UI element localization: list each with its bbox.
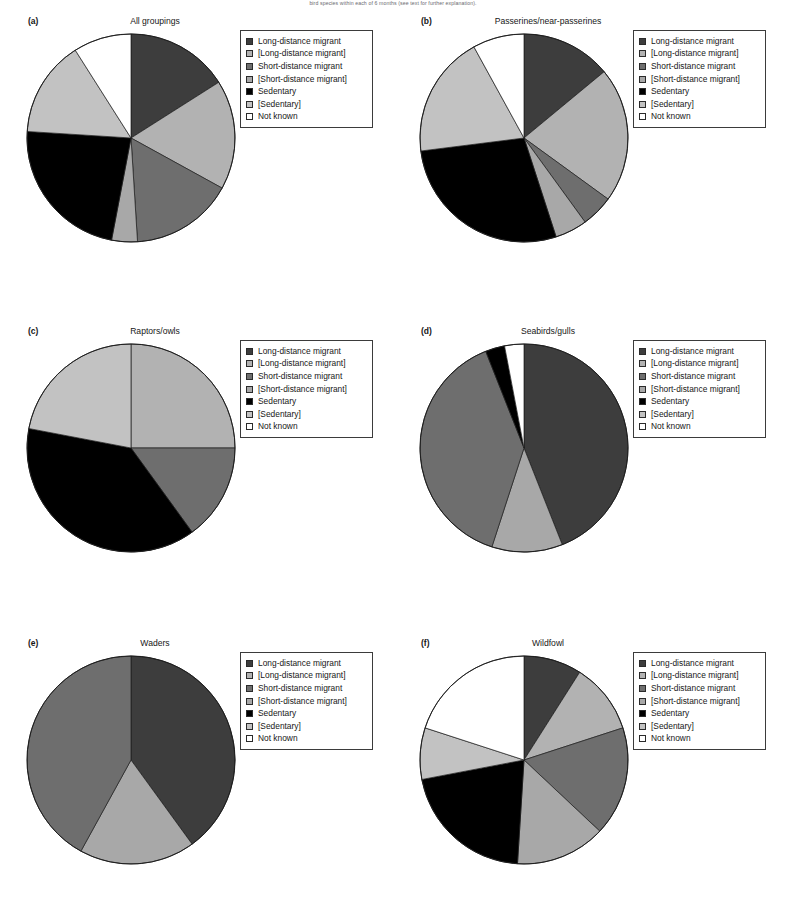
legend-item-label: [Short-distance migrant] xyxy=(651,697,740,706)
legend-swatch-icon xyxy=(246,50,253,57)
legend-item-sdm[interactable]: Short-distance migrant xyxy=(246,370,365,383)
pie-chart xyxy=(25,32,237,244)
legend-item-ldm[interactable]: Long-distance migrant xyxy=(639,657,758,670)
legend-item-ldm[interactable]: Long-distance migrant xyxy=(246,35,365,48)
legend-swatch-icon xyxy=(639,113,646,120)
legend-item-ldm_b[interactable]: [Long-distance migrant] xyxy=(639,670,758,683)
legend-item-ldm_b[interactable]: [Long-distance migrant] xyxy=(639,48,758,61)
legend-swatch-icon xyxy=(639,735,646,742)
legend-item-sdm[interactable]: Short-distance migrant xyxy=(639,682,758,695)
legend-item-label: [Sedentary] xyxy=(651,100,694,109)
legend-item-ldm_b[interactable]: [Long-distance migrant] xyxy=(246,670,365,683)
legend-swatch-icon xyxy=(246,38,253,45)
legend-swatch-icon xyxy=(639,373,646,380)
legend-item-nk[interactable]: Not known xyxy=(246,421,365,434)
legend-item-sdm[interactable]: Short-distance migrant xyxy=(246,682,365,695)
legend-item-label: [Sedentary] xyxy=(651,722,694,731)
legend-item-label: Sedentary xyxy=(651,709,689,718)
legend-item-sdm_b[interactable]: [Short-distance migrant] xyxy=(639,73,758,86)
legend-swatch-icon xyxy=(639,710,646,717)
legend-item-ldm[interactable]: Long-distance migrant xyxy=(246,657,365,670)
legend-item-nk[interactable]: Not known xyxy=(639,733,758,746)
legend-item-sed[interactable]: Sedentary xyxy=(246,395,365,408)
legend: Long-distance migrant[Long-distance migr… xyxy=(633,340,766,438)
legend-item-label: Short-distance migrant xyxy=(258,62,342,71)
legend-swatch-icon xyxy=(246,735,253,742)
legend-item-sdm_b[interactable]: [Short-distance migrant] xyxy=(246,73,365,86)
chart-panel-f: (f)WildfowlLong-distance migrant[Long-di… xyxy=(393,632,786,904)
legend-swatch-icon xyxy=(639,38,646,45)
legend-item-label: Not known xyxy=(651,112,691,121)
legend-item-label: Short-distance migrant xyxy=(651,684,735,693)
panel-title: Raptors/owls xyxy=(60,326,250,336)
legend-swatch-icon xyxy=(639,348,646,355)
legend-item-label: [Sedentary] xyxy=(651,410,694,419)
legend-item-sed_b[interactable]: [Sedentary] xyxy=(639,720,758,733)
legend-item-sed[interactable]: Sedentary xyxy=(246,85,365,98)
legend-item-nk[interactable]: Not known xyxy=(246,733,365,746)
legend: Long-distance migrant[Long-distance migr… xyxy=(240,340,373,438)
panel-title: Passerines/near-passerines xyxy=(453,16,643,26)
legend-swatch-icon xyxy=(639,423,646,430)
chart-panel-c: (c)Raptors/owlsLong-distance migrant[Lon… xyxy=(0,320,393,620)
legend-item-sdm[interactable]: Short-distance migrant xyxy=(639,370,758,383)
legend-item-sdm_b[interactable]: [Short-distance migrant] xyxy=(246,383,365,396)
legend-swatch-icon xyxy=(639,660,646,667)
legend-swatch-icon xyxy=(639,50,646,57)
legend-item-label: Sedentary xyxy=(651,397,689,406)
legend-item-nk[interactable]: Not known xyxy=(639,111,758,124)
legend-item-sed[interactable]: Sedentary xyxy=(246,707,365,720)
legend-item-sdm[interactable]: Short-distance migrant xyxy=(639,60,758,73)
legend-item-label: [Short-distance migrant] xyxy=(258,385,347,394)
legend-item-sed[interactable]: Sedentary xyxy=(639,395,758,408)
legend-item-label: [Long-distance migrant] xyxy=(258,671,346,680)
legend-item-label: Short-distance migrant xyxy=(651,372,735,381)
legend-item-nk[interactable]: Not known xyxy=(246,111,365,124)
legend-item-sed[interactable]: Sedentary xyxy=(639,85,758,98)
legend-item-label: [Long-distance migrant] xyxy=(651,671,739,680)
legend-swatch-icon xyxy=(639,63,646,70)
legend-item-label: Long-distance migrant xyxy=(651,659,734,668)
legend: Long-distance migrant[Long-distance migr… xyxy=(240,652,373,750)
legend-swatch-icon xyxy=(639,698,646,705)
legend-item-sed_b[interactable]: [Sedentary] xyxy=(639,98,758,111)
legend-item-ldm[interactable]: Long-distance migrant xyxy=(639,345,758,358)
pie-svg xyxy=(418,654,630,866)
legend-swatch-icon xyxy=(639,685,646,692)
legend-item-sed_b[interactable]: [Sedentary] xyxy=(246,720,365,733)
legend-item-label: Long-distance migrant xyxy=(651,347,734,356)
legend-item-ldm_b[interactable]: [Long-distance migrant] xyxy=(246,48,365,61)
legend-swatch-icon xyxy=(246,386,253,393)
legend-item-sdm[interactable]: Short-distance migrant xyxy=(246,60,365,73)
legend: Long-distance migrant[Long-distance migr… xyxy=(633,652,766,750)
legend-item-label: [Long-distance migrant] xyxy=(258,49,346,58)
panel-letter: (f) xyxy=(421,638,430,648)
legend-swatch-icon xyxy=(246,672,253,679)
legend-item-ldm[interactable]: Long-distance migrant xyxy=(639,35,758,48)
legend-swatch-icon xyxy=(246,423,253,430)
legend-item-sdm_b[interactable]: [Short-distance migrant] xyxy=(246,695,365,708)
legend-item-sed_b[interactable]: [Sedentary] xyxy=(246,408,365,421)
legend-item-ldm_b[interactable]: [Long-distance migrant] xyxy=(246,358,365,371)
legend-item-nk[interactable]: Not known xyxy=(639,421,758,434)
legend-item-label: Short-distance migrant xyxy=(651,62,735,71)
legend-item-sdm_b[interactable]: [Short-distance migrant] xyxy=(639,695,758,708)
legend-item-label: Long-distance migrant xyxy=(258,37,341,46)
legend-item-label: [Long-distance migrant] xyxy=(651,49,739,58)
legend-item-sed_b[interactable]: [Sedentary] xyxy=(639,408,758,421)
panel-title: Waders xyxy=(60,638,250,648)
legend-item-ldm[interactable]: Long-distance migrant xyxy=(246,345,365,358)
pie-svg xyxy=(25,342,237,554)
pie-svg xyxy=(25,32,237,244)
legend-item-ldm_b[interactable]: [Long-distance migrant] xyxy=(639,358,758,371)
legend-item-sed_b[interactable]: [Sedentary] xyxy=(246,98,365,111)
legend-item-sdm_b[interactable]: [Short-distance migrant] xyxy=(639,383,758,396)
legend-swatch-icon xyxy=(639,411,646,418)
legend-item-label: Sedentary xyxy=(651,87,689,96)
pie-svg xyxy=(418,342,630,554)
legend-swatch-icon xyxy=(639,398,646,405)
legend-swatch-icon xyxy=(246,63,253,70)
legend-item-sed[interactable]: Sedentary xyxy=(639,707,758,720)
panel-title: Seabirds/gulls xyxy=(453,326,643,336)
legend-item-label: Not known xyxy=(651,422,691,431)
